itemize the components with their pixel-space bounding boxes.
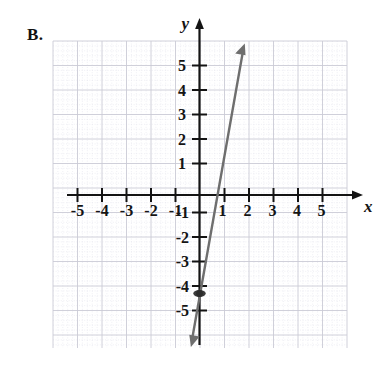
y-tick-label: 3: [178, 106, 186, 123]
y-tick-label: -2: [176, 229, 189, 246]
x-tick-label: 2: [244, 202, 252, 219]
coordinate-graph: -5 -4 -3 -2 -1 1 2 3 4 5 5 4 3 2 1 -1 -2…: [0, 0, 386, 365]
x-tick-label: 5: [318, 202, 326, 219]
y-tick-label: -5: [176, 302, 189, 319]
x-tick-label: 3: [269, 202, 277, 219]
x-axis-label: x: [363, 197, 373, 216]
y-tick-label: 1: [178, 155, 186, 172]
x-axis-tick-labels: -5 -4 -3 -2 -1 1 2 3 4 5: [71, 202, 326, 219]
x-tick-label: -3: [120, 202, 133, 219]
y-tick-label: 5: [178, 57, 186, 74]
point-marker-0-neg4: [193, 290, 205, 297]
y-axis-label: y: [179, 14, 189, 33]
y-tick-label: -1: [176, 204, 189, 221]
y-tick-label: -4: [176, 278, 189, 295]
figure-page: B.: [0, 0, 386, 365]
x-tick-label: -2: [144, 202, 157, 219]
x-tick-label: -4: [95, 202, 108, 219]
y-tick-label: 4: [178, 82, 186, 99]
x-tick-label: 4: [293, 202, 301, 219]
x-tick-label: -5: [71, 202, 84, 219]
y-tick-label: -3: [176, 253, 189, 270]
y-tick-label: 2: [178, 131, 186, 148]
x-tick-label: 1: [219, 202, 227, 219]
